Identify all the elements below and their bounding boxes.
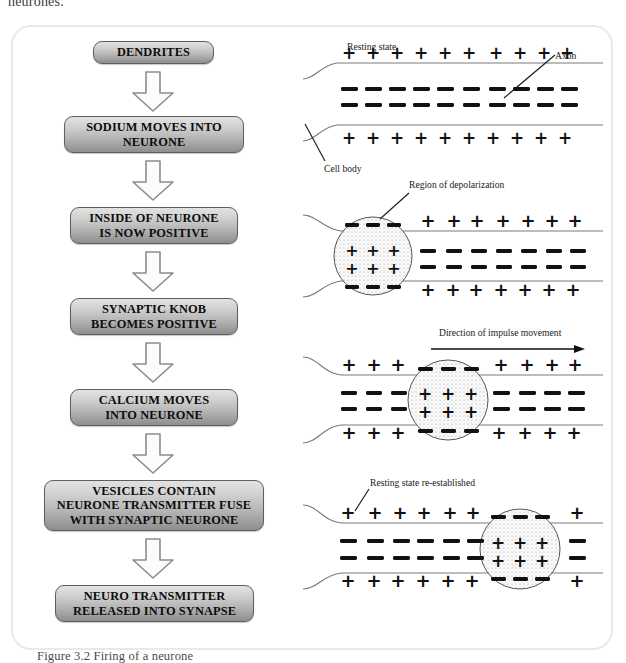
svg-text:+: + [340,570,355,591]
svg-text:+: + [517,422,532,443]
svg-text:+: + [493,279,508,300]
svg-text:+: + [440,570,455,591]
flow-box-inside-of-neurone-is-now-positive[interactable]: INSIDE OF NEURONE IS NOW POSITIVE [70,207,238,244]
svg-text:+: + [541,279,556,300]
neurone-diagram-panels: +++ +++ +++ + [303,27,615,652]
svg-text:+: + [367,502,382,523]
svg-text:+: + [569,570,584,591]
svg-text:+: + [345,241,358,260]
svg-text:+: + [446,210,461,231]
svg-text:+: + [495,210,510,231]
svg-text:+: + [535,533,549,553]
svg-text:+: + [462,128,476,148]
svg-text:+: + [513,551,527,571]
svg-text:+: + [441,384,455,404]
flow-box-dendrites[interactable]: DENDRITES [93,41,214,64]
svg-text:+: + [366,422,381,443]
figure-frame: DENDRITES SODIUM MOVES INTO NEURONE INSI… [11,25,613,650]
svg-text:+: + [366,354,381,375]
arrow-down-icon [130,251,176,293]
svg-text:+: + [464,384,478,404]
flow-box-sodium-moves-into-neurone[interactable]: SODIUM MOVES INTO NEURONE [64,116,244,153]
resting-state-re-established-label: Resting state re-established [370,477,475,488]
svg-text:+: + [517,279,532,300]
svg-text:+: + [519,354,534,375]
svg-text:+: + [469,210,484,231]
flow-box-label: SODIUM MOVES INTO NEURONE [86,120,222,149]
svg-text:+: + [491,551,505,571]
neurone-panel-resting-state: +++ +++ +++ + [303,33,615,173]
svg-text:+: + [390,128,404,148]
svg-text:+: + [464,570,479,591]
svg-text:+: + [418,384,432,404]
svg-text:+: + [567,210,582,231]
flow-box-neuro-transmitter-released-into-synapse[interactable]: NEURO TRANSMITTER RELEASED INTO SYNAPSE [55,585,254,622]
svg-text:+: + [486,128,500,148]
svg-text:+: + [441,402,455,422]
axon-label: Axon [555,50,576,61]
svg-text:+: + [387,241,400,260]
flowchart: DENDRITES SODIUM MOVES INTO NEURONE INSI… [13,27,303,652]
svg-text:+: + [415,570,430,591]
flow-box-label: SYNAPTIC KNOB BECOMES POSITIVE [91,302,217,331]
svg-text:+: + [390,422,405,443]
svg-text:+: + [468,279,483,300]
arrow-down-icon [130,71,176,113]
figure-caption: Figure 3.2 Firing of a neurone [37,649,193,663]
arrow-down-icon [130,342,176,384]
svg-text:+: + [513,43,527,63]
svg-text:+: + [342,128,356,148]
svg-text:+: + [341,354,356,375]
svg-text:+: + [462,43,476,63]
svg-text:+: + [420,279,435,300]
svg-text:+: + [340,502,355,523]
svg-text:+: + [366,241,379,260]
flow-box-label: DENDRITES [117,45,190,60]
svg-text:+: + [491,422,506,443]
flow-box-label: CALCIUM MOVES INTO NEURONE [99,393,209,422]
flow-box-calcium-moves-into-neurone[interactable]: CALCIUM MOVES INTO NEURONE [70,389,238,426]
arrow-down-icon [130,160,176,202]
cell-body-label: Cell body [324,163,362,174]
svg-text:+: + [414,128,428,148]
svg-text:+: + [534,128,548,148]
svg-text:+: + [544,354,559,375]
neurone-panel-resting-state-re-established: +++ +++ +++ +++ [303,467,615,607]
flow-box-synaptic-knob-becomes-positive[interactable]: SYNAPTIC KNOB BECOMES POSITIVE [70,298,238,335]
svg-text:+: + [542,422,557,443]
svg-text:+: + [392,502,407,523]
svg-text:+: + [510,128,524,148]
svg-text:+: + [535,551,549,571]
svg-text:+: + [438,43,452,63]
svg-text:+: + [565,279,580,300]
neurone-panel-depolarization-start: +++ +++ +++ +++ + [303,179,615,309]
svg-text:+: + [390,570,405,591]
svg-text:+: + [537,43,551,63]
region-of-depolarization-label: Region of depolarization [409,179,504,190]
resting-state-label: Resting state [347,41,396,52]
flow-box-label: VESICLES CONTAIN NEURONE TRANSMITTER FUS… [57,484,251,528]
svg-text:+: + [567,354,582,375]
flow-box-vesicles-contain-neurone-transmitter-fuse[interactable]: VESICLES CONTAIN NEURONE TRANSMITTER FUS… [44,480,264,531]
arrow-down-icon [130,433,176,475]
flow-box-label: INSIDE OF NEURONE IS NOW POSITIVE [89,211,218,240]
svg-text:+: + [387,259,400,278]
neurone-panel-impulse-travelling: +++ +++ +++ +++ [303,315,615,460]
svg-text:+: + [489,43,503,63]
svg-text:+: + [569,502,584,523]
svg-text:+: + [513,533,527,553]
svg-text:+: + [438,128,452,148]
svg-text:+: + [464,402,478,422]
svg-text:+: + [445,279,460,300]
running-body-text: neurones. [8,0,64,10]
svg-text:+: + [420,210,435,231]
svg-text:+: + [520,210,535,231]
svg-text:+: + [341,422,356,443]
svg-text:+: + [414,43,428,63]
svg-text:+: + [442,502,457,523]
svg-text:+: + [418,402,432,422]
svg-text:+: + [491,533,505,553]
svg-text:+: + [558,128,572,148]
svg-text:+: + [465,502,480,523]
svg-text:+: + [390,354,405,375]
